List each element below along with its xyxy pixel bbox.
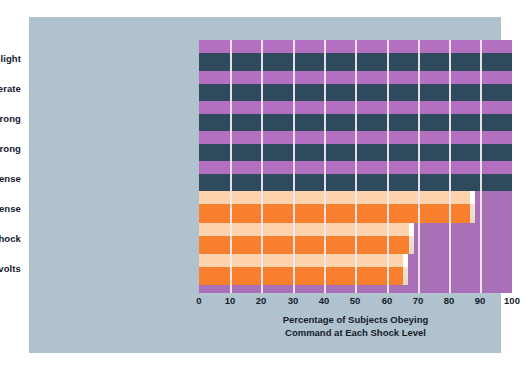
x-tick-0: 0: [196, 295, 201, 306]
x-tick-70: 70: [413, 295, 424, 306]
x-tick-100: 100: [504, 295, 520, 306]
plot-area: [199, 40, 512, 293]
category-label-moderate: Moderate: [0, 83, 21, 94]
category-label-450-volts: 450 volts: [0, 263, 21, 274]
bar-end-bevel: [403, 254, 408, 285]
chart-panel: Shock Level:Slight Moderate Strong Very …: [29, 17, 501, 353]
bar-end-bevel: [409, 223, 414, 254]
gridline: [480, 40, 482, 293]
x-tick-30: 30: [288, 295, 299, 306]
x-tick-60: 60: [382, 295, 393, 306]
x-tick-50: 50: [350, 295, 361, 306]
chart-figure: Shock Level:Slight Moderate Strong Very …: [0, 0, 532, 369]
category-label-strong: Strong: [0, 113, 21, 124]
x-axis: 0 10 20 30 40 50 60 70 80 90 100: [199, 295, 512, 311]
gridline: [387, 40, 389, 293]
category-label-slight: Shock Level:Slight: [0, 53, 21, 64]
gridline: [230, 40, 232, 293]
category-label-danger-severe-shock: Danger: severe shock: [0, 233, 21, 244]
category-label-text: Slight: [0, 53, 21, 64]
x-axis-title: Percentage of Subjects Obeying Command a…: [199, 313, 512, 339]
x-axis-title-line-2: Command at Each Shock Level: [199, 326, 512, 339]
gridline: [324, 40, 326, 293]
x-tick-90: 90: [475, 295, 486, 306]
bar-top-face: [199, 191, 470, 204]
category-label-extremely-intense: Extremely intense: [0, 203, 21, 214]
category-label-very-strong: Very strong: [0, 143, 21, 154]
x-axis-title-line-1: Percentage of Subjects Obeying: [199, 313, 512, 326]
category-axis-labels: Shock Level:Slight Moderate Strong Very …: [29, 17, 199, 353]
bar-end-bevel: [470, 191, 475, 223]
gridline: [261, 40, 263, 293]
bar-front-face: [199, 204, 470, 223]
gridline: [293, 40, 295, 293]
gridline: [418, 40, 420, 293]
gridline: [449, 40, 451, 293]
x-tick-20: 20: [256, 295, 267, 306]
x-tick-40: 40: [319, 295, 330, 306]
gridline: [355, 40, 357, 293]
bar-extremely-intense: [199, 191, 470, 223]
x-tick-80: 80: [444, 295, 455, 306]
x-tick-10: 10: [225, 295, 236, 306]
category-label-intense: Intense: [0, 173, 21, 184]
